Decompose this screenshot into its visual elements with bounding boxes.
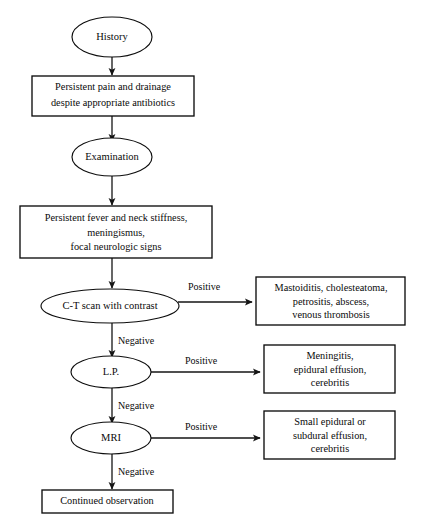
node-persistent-fever-line-3: focal neurologic signs: [71, 241, 162, 252]
node-ct-scan-label: C-T scan with contrast: [62, 300, 157, 311]
node-persistent-fever-line-2: meningismus,: [87, 227, 145, 238]
node-lp-positive-line-2: epidural effusion,: [294, 364, 366, 375]
edge-label-lp-negative: Negative: [118, 400, 155, 411]
node-continued-observation-label: Continued observation: [60, 495, 154, 506]
edge-label-mri-negative: Negative: [118, 466, 155, 477]
node-examination-label: Examination: [85, 151, 139, 162]
edge-label-ct-positive: Positive: [188, 281, 221, 292]
node-mri-positive-line-1: Small epidural or: [294, 416, 366, 427]
edge-label-lp-positive: Positive: [185, 355, 218, 366]
node-mri-positive-line-3: cerebritis: [311, 443, 349, 454]
edge-label-mri-positive: Positive: [185, 421, 218, 432]
node-persistent-pain-line-1: Persistent pain and drainage: [55, 81, 171, 92]
flowchart-figure: History Persistent pain and drainage des…: [0, 0, 423, 529]
node-mri-positive-line-2: subdural effusion,: [293, 430, 367, 441]
flowchart-canvas: History Persistent pain and drainage des…: [0, 0, 423, 529]
node-lp-label: L.P.: [103, 366, 119, 377]
node-ct-positive-line-3: venous thrombosis: [292, 309, 370, 320]
node-ct-positive-line-2: petrositis, abscess,: [293, 296, 369, 307]
node-ct-positive-line-1: Mastoiditis, cholesteatoma,: [275, 282, 388, 293]
node-history-label: History: [96, 31, 128, 42]
node-lp-positive-line-3: cerebritis: [311, 377, 349, 388]
node-persistent-fever-line-1: Persistent fever and neck stiffness,: [45, 212, 188, 223]
edge-label-ct-negative: Negative: [118, 335, 155, 346]
node-persistent-pain-line-2: despite appropriate antibiotics: [51, 97, 175, 108]
node-lp-positive-line-1: Meningitis,: [306, 350, 353, 361]
node-mri-label: MRI: [101, 432, 121, 443]
